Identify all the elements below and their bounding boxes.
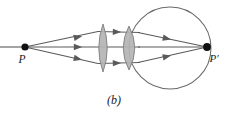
object-point-label: P (17, 53, 25, 65)
eyeball-circle (129, 7, 211, 89)
image-point-marker (203, 43, 211, 51)
exit-ray-upper (138, 33, 207, 48)
object-point-marker (21, 43, 28, 50)
incident-ray-group (25, 32, 98, 64)
arrow-lower-incident-icon (73, 55, 83, 63)
arrow-upper-between-icon (113, 29, 122, 36)
optics-figure: P P′ (b) (0, 0, 230, 113)
figure-caption: (b) (107, 93, 121, 107)
incident-ray-upper (25, 32, 98, 48)
incident-ray-lower (25, 47, 98, 64)
arrow-upper-exit-icon (162, 35, 172, 43)
image-point-label: P′ (208, 52, 219, 64)
arrow-lower-exit-icon (162, 52, 172, 60)
arrow-axis-incident-icon (74, 44, 82, 50)
exit-ray-group (138, 33, 207, 63)
exit-ray-lower (138, 47, 207, 63)
arrow-lower-between-icon (113, 60, 122, 67)
arrow-upper-incident-icon (73, 33, 83, 41)
optics-diagram-svg: P P′ (b) (0, 0, 230, 113)
